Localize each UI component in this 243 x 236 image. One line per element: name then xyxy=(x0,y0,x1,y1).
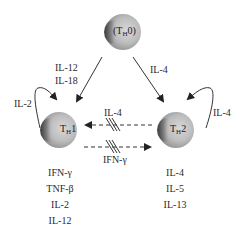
inhibition-hatch-marks xyxy=(106,118,120,153)
th2-products-list: IL-4 IL-5 IL-13 xyxy=(155,165,195,213)
th1-product: IL-12 xyxy=(40,213,80,229)
th0-label: (TH0) xyxy=(113,25,136,38)
th2-product: IL-13 xyxy=(155,197,195,213)
th1-product: IFN-γ xyxy=(40,165,80,181)
th2-self-il4-label: IL-4 xyxy=(213,107,231,119)
th1-product: TNF-β xyxy=(40,181,80,197)
th1-product: IL-2 xyxy=(40,197,80,213)
th2-product: IL-5 xyxy=(155,181,195,197)
th2-label: TH2 xyxy=(170,123,186,136)
th2-to-th1-il4-label: IL-4 xyxy=(104,107,122,119)
il12-label: IL-12 xyxy=(55,62,78,74)
th2-product: IL-4 xyxy=(155,165,195,181)
th1-products-list: IFN-γ TNF-β IL-2 IL-12 xyxy=(40,165,80,229)
th1-to-th2-ifng-label: IFN-γ xyxy=(103,154,127,166)
th1-label: TH1 xyxy=(60,123,76,136)
th1-self-il2-label: IL-2 xyxy=(14,98,32,110)
th0-to-th1-arrow xyxy=(77,57,102,101)
th0-to-th2-il4-label: IL-4 xyxy=(150,64,168,76)
il18-label: IL-18 xyxy=(55,75,78,87)
